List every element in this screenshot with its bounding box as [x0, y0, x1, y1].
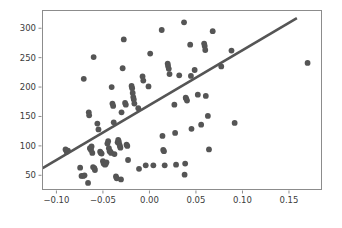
- x-tick-label: 0.05: [186, 195, 205, 205]
- data-point: [203, 93, 209, 99]
- data-point: [120, 65, 126, 71]
- data-point: [99, 151, 105, 157]
- data-point: [81, 76, 87, 82]
- axes-background: [42, 10, 322, 190]
- y-tick-label: 100: [20, 141, 36, 151]
- data-point: [89, 150, 95, 156]
- data-point: [123, 102, 129, 108]
- data-point: [210, 28, 216, 34]
- data-point: [195, 92, 201, 98]
- data-point: [147, 51, 153, 57]
- data-point: [305, 60, 311, 66]
- data-point: [104, 159, 110, 165]
- data-point: [184, 98, 190, 104]
- data-point: [140, 78, 146, 84]
- data-point: [161, 148, 167, 154]
- y-tick-label: 250: [20, 53, 36, 63]
- data-point: [92, 167, 98, 173]
- data-point: [167, 71, 173, 77]
- data-point: [171, 102, 177, 108]
- data-point: [150, 162, 156, 168]
- data-point: [136, 166, 142, 172]
- scatter-plot: −0.10−0.050.000.050.100.15 5010015020025…: [0, 0, 342, 228]
- data-point: [181, 19, 187, 25]
- data-point: [131, 101, 137, 107]
- data-point: [105, 138, 111, 144]
- data-point: [119, 109, 125, 115]
- data-point: [182, 172, 188, 178]
- data-point: [187, 42, 193, 48]
- x-tick-label: −0.10: [43, 195, 69, 205]
- data-point: [229, 48, 235, 54]
- data-point: [232, 120, 238, 126]
- data-point: [109, 84, 115, 90]
- data-point: [146, 84, 152, 90]
- data-point: [159, 27, 165, 33]
- figure-container: −0.10−0.050.000.050.100.15 5010015020025…: [0, 0, 342, 228]
- data-point: [205, 113, 211, 119]
- y-tick-label: 50: [25, 170, 36, 180]
- data-point: [192, 67, 198, 73]
- data-point: [160, 133, 166, 139]
- y-tick-label: 150: [20, 111, 36, 121]
- data-point: [176, 72, 182, 78]
- data-point: [118, 145, 124, 151]
- data-point: [94, 121, 100, 127]
- data-point: [206, 147, 212, 153]
- x-tick-label: −0.05: [90, 195, 116, 205]
- data-point: [162, 162, 168, 168]
- data-point: [182, 161, 188, 167]
- data-point: [82, 172, 88, 178]
- data-point: [173, 162, 179, 168]
- x-tick-label: 0.15: [280, 195, 299, 205]
- data-point: [121, 37, 127, 43]
- data-point: [166, 66, 172, 72]
- data-point: [118, 177, 124, 183]
- data-point: [189, 126, 195, 132]
- data-point: [198, 122, 204, 128]
- data-point: [202, 47, 208, 53]
- data-point: [112, 151, 118, 157]
- data-point: [91, 54, 97, 60]
- data-point: [86, 112, 92, 118]
- data-point: [143, 162, 149, 168]
- data-point: [124, 143, 130, 149]
- y-tick-label: 300: [20, 23, 36, 33]
- x-tick-label: 0.00: [140, 195, 159, 205]
- data-point: [125, 157, 131, 163]
- y-tick-label: 200: [20, 82, 36, 92]
- data-point: [172, 130, 178, 136]
- data-point: [85, 180, 91, 186]
- data-point: [188, 73, 194, 79]
- data-point: [96, 127, 102, 133]
- data-point: [77, 165, 83, 171]
- data-point: [89, 144, 95, 150]
- data-point: [110, 103, 116, 109]
- x-tick-label: 0.10: [233, 195, 252, 205]
